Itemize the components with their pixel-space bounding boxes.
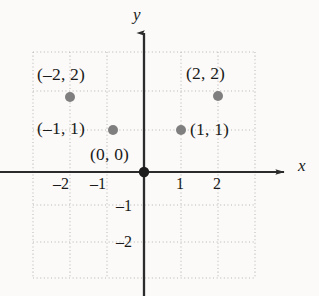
xtick-label-neg2: –2 [53,176,69,192]
xtick-label-2: 2 [213,176,221,192]
dot-2-2[interactable] [213,91,223,101]
dot-neg2-2[interactable] [65,92,75,102]
point-label-origin: (0, 0) [90,146,129,164]
point-label-2-2: (2, 2) [186,65,225,83]
dot-1-1[interactable] [176,125,186,135]
point-label-1-1: (1, 1) [190,121,229,139]
x-axis-label: x [298,157,306,174]
point-label-neg1-1: (–1, 1) [37,120,85,138]
plot-canvas [0,0,319,296]
coordinate-plane-figure: y x (–2, 2) (2, 2) (–1, 1) (1, 1) (0, 0)… [0,0,319,296]
point-label-neg2-2: (–2, 2) [37,66,85,84]
xtick-label-1: 1 [176,176,184,192]
y-axis-label: y [133,6,141,23]
dot-neg1-1[interactable] [108,125,118,135]
ytick-label-neg1: –1 [116,198,132,214]
xtick-label-neg1: –1 [90,176,106,192]
dot-origin[interactable] [139,167,149,177]
ytick-label-neg2: –2 [116,234,132,250]
